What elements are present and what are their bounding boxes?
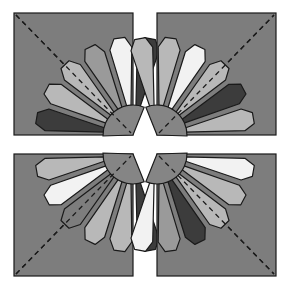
quadrant-bottom-left [14, 153, 159, 276]
quadrant-top-left [14, 13, 159, 136]
quadrant-bottom-right [131, 153, 276, 276]
quadrant-top-right [131, 13, 276, 136]
quadrant-group [14, 13, 276, 276]
quilt-diagram [0, 0, 289, 287]
